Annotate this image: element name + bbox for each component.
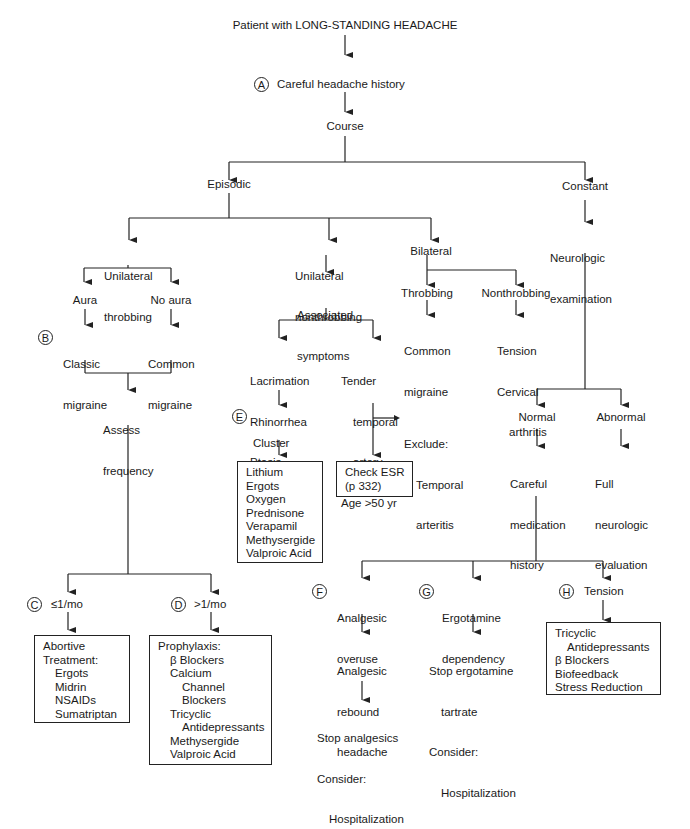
frequency-le-1-mo: ≤1/mo	[51, 598, 83, 612]
tension-node: Tension	[584, 585, 624, 599]
treatment-item: Methysergide	[246, 534, 316, 548]
node-line: arthritis	[497, 426, 547, 440]
treatment-item: Prednisone	[246, 507, 316, 521]
node-line: Analgesic	[337, 665, 388, 679]
treatment-item: Ergots	[246, 480, 316, 494]
step-badge-b: B	[38, 330, 53, 345]
treatment-item: Biofeedback	[555, 668, 654, 682]
node-line: history	[510, 559, 566, 573]
no-aura-node: No aura	[151, 294, 192, 308]
step-badge-h: H	[559, 584, 574, 599]
treatment-item: Blockers	[158, 694, 265, 708]
node-line: Tension	[497, 345, 547, 359]
tension-cervical-arthritis-node: Tension Cervical arthritis	[497, 318, 547, 453]
careful-medication-history-node: Careful medication history	[510, 451, 566, 586]
node-line: Age >50 yr	[341, 497, 398, 511]
treatment-item: Antidepressants	[158, 721, 265, 735]
neuro-exam-line: Neurologic	[550, 252, 612, 266]
node-line: medication	[510, 519, 566, 533]
node-line: Common	[148, 358, 195, 372]
node-line: Hospitalization	[429, 787, 516, 801]
normal-node: Normal	[518, 411, 555, 425]
treatment-item: Ergots	[43, 667, 123, 681]
throbbing-node: Throbbing	[401, 287, 453, 301]
step-badge-d: D	[171, 597, 186, 612]
bilateral-node: Bilateral	[410, 245, 452, 259]
node-line: (p 332)	[345, 480, 406, 494]
node-line: Associated	[297, 309, 353, 323]
node-line: Cluster	[253, 437, 304, 451]
episodic-node: Episodic	[207, 178, 250, 192]
full-neurologic-evaluation-node: Full neurologic evaluation	[595, 451, 648, 586]
step-badge-e: E	[232, 409, 247, 424]
treatment-item: Oxygen	[246, 493, 316, 507]
node-line: Stop ergotamine	[429, 665, 516, 679]
step-badge-a: A	[254, 77, 269, 92]
stop-analgesics-node: Stop analgesics Consider: Hospitalizatio…	[317, 705, 404, 829]
node-line: migraine	[404, 386, 451, 400]
node-line: migraine	[148, 399, 195, 413]
tension-treatment-box: Tricyclic Antidepressants β Blockers Bio…	[546, 622, 661, 695]
treatment-item: Antidepressants	[555, 641, 654, 655]
abnormal-node: Abnormal	[596, 411, 645, 425]
treatment-item: Methysergide	[158, 735, 265, 749]
treatment-item: Abortive	[43, 640, 123, 654]
classic-migraine-node: Classic migraine	[63, 331, 107, 426]
node-line: Cervical	[497, 386, 547, 400]
treatment-item: Sumatriptan	[43, 708, 123, 722]
treatment-item: Stress Reduction	[555, 681, 654, 695]
assess-frequency-node: Assess frequency	[103, 397, 154, 492]
node-line: Stop analgesics	[317, 732, 404, 746]
step-badge-g: G	[419, 584, 434, 599]
node-line: neurologic	[595, 519, 648, 533]
node-line: migraine	[63, 399, 107, 413]
node-line: Assess	[103, 424, 154, 438]
neurologic-examination-node: Neurologic examination	[550, 225, 612, 320]
step-badge-c: C	[27, 597, 42, 612]
node-line: Check ESR	[345, 466, 406, 480]
frequency-gt-1-mo: >1/mo	[194, 598, 226, 612]
tender-temporal-artery-node: Tender temporal artery Age >50 yr	[341, 348, 398, 524]
treatment-item: β Blockers	[555, 654, 654, 668]
stop-ergotamine-node: Stop ergotamine tartrate Consider: Hospi…	[429, 638, 516, 814]
treatment-item: Lithium	[246, 466, 316, 480]
node-line: tartrate	[429, 706, 516, 720]
node-line: Consider:	[317, 773, 404, 787]
unilateral-throbbing-node: Unilateral throbbing	[104, 243, 153, 338]
node-line: Analgesic	[337, 612, 387, 626]
treatment-item: β Blockers	[158, 654, 265, 668]
treatment-item: Valproic Acid	[246, 547, 316, 561]
node-line: Classic	[63, 358, 107, 372]
treatment-item: Verapamil	[246, 520, 316, 534]
node-line: Common	[404, 345, 451, 359]
node-line: throbbing	[104, 311, 153, 325]
prophylaxis-box: Prophylaxis: β Blockers Calcium Channel …	[149, 635, 272, 765]
diagram-title: Patient with LONG-STANDING HEADACHE	[233, 19, 458, 33]
node-line: Careful	[510, 478, 566, 492]
node-line: evaluation	[595, 559, 648, 573]
node-line: Lacrimation	[250, 375, 309, 389]
step-badge-f: F	[312, 584, 327, 599]
treatment-item: Tricyclic	[158, 708, 265, 722]
common-migraine-bilateral-node: Common migraine	[404, 318, 451, 413]
treatment-item: NSAIDs	[43, 694, 123, 708]
node-line: Consider:	[429, 746, 516, 760]
treatment-item: Prophylaxis:	[158, 640, 265, 654]
node-line: Tender	[341, 375, 398, 389]
treatment-item: Calcium	[158, 667, 265, 681]
aura-node: Aura	[73, 294, 97, 308]
node-line: Exclude:	[404, 438, 463, 452]
careful-headache-history: Careful headache history	[277, 78, 405, 92]
node-line: Unilateral	[104, 270, 153, 284]
node-line: Hospitalization	[317, 813, 404, 827]
treatment-item: Channel	[158, 681, 265, 695]
node-line: temporal	[341, 416, 398, 430]
check-esr-box: Check ESR (p 332)	[336, 461, 413, 497]
node-line: arteritis	[404, 519, 463, 533]
node-line: Ergotamine	[442, 612, 505, 626]
treatment-item: Midrin	[43, 681, 123, 695]
nonthrobbing-node: Nonthrobbing	[481, 287, 550, 301]
constant-node: Constant	[562, 180, 608, 194]
course-node: Course	[326, 120, 363, 134]
cluster-treatment-box: Lithium Ergots Oxygen Prednisone Verapam…	[237, 461, 323, 563]
